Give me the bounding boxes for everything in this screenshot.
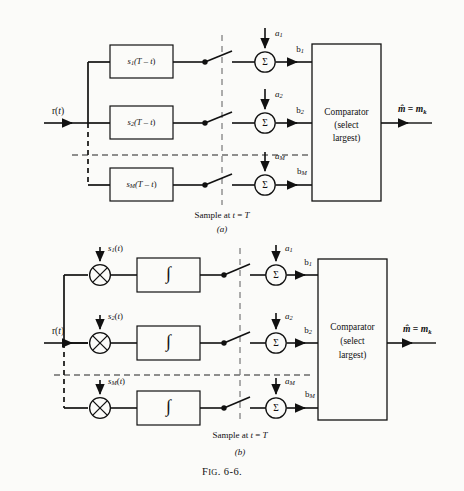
reference-label-2: s2(t): [108, 311, 123, 322]
comparator-label-line3-b: largest): [339, 350, 367, 361]
summer-symbol-2: Σ: [262, 118, 268, 128]
comparator-label-line2-a: (select: [334, 120, 359, 131]
block-diagram-figure: r(t) s1(T – t) Σ a1: [0, 0, 464, 491]
summer-symbol-1: Σ: [262, 57, 268, 67]
page-background: [0, 0, 464, 491]
output-label-b: m̂ = mk: [403, 323, 432, 335]
summer-symbol-b2: Σ: [273, 338, 279, 348]
panel-label-b: (b): [235, 447, 246, 457]
comparator-label-line1-a: Comparator: [324, 107, 369, 117]
summer-symbol-bM: Σ: [273, 403, 279, 413]
summer-symbol-b1: Σ: [273, 270, 279, 280]
input-label-a: r(t): [52, 106, 64, 117]
input-label-b: r(t): [52, 326, 64, 337]
comparator-label-line2-b: (select: [340, 336, 365, 347]
comparator-label-line3-a: largest): [333, 133, 361, 144]
comparator-label-line1-b: Comparator: [330, 322, 375, 332]
summer-symbol-M: Σ: [262, 180, 268, 190]
sample-note-b: Sample at t = T: [212, 430, 268, 440]
output-label-a: m̂ = mk: [398, 103, 427, 115]
panel-label-a: (a): [217, 224, 228, 234]
sample-note-a: Sample at t = T: [194, 210, 250, 220]
figure-canvas: r(t) s1(T – t) Σ a1: [0, 0, 464, 491]
reference-label-1: s1(t): [108, 243, 123, 254]
reference-label-M: sM(t): [108, 376, 125, 387]
figure-caption: FIG. 6-6.: [202, 466, 242, 477]
